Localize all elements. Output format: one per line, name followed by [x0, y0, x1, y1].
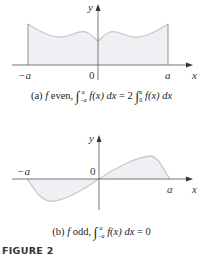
y-axis-label: y [88, 2, 93, 13]
tick-neg-a: −a [18, 70, 31, 81]
upper-limit: a [139, 88, 142, 96]
x-axis-label: x [192, 184, 197, 195]
x-axis-label: x [192, 70, 197, 81]
lower-limit: −a [98, 232, 105, 240]
tick-pos-a: a [165, 70, 171, 81]
integrand: f(x) dx [87, 90, 117, 101]
tick-neg-a: −a [17, 166, 30, 177]
y-axis-arrow-icon [97, 135, 102, 142]
caption-b: (b) f odd, ∫a−a f(x) dx = 0 [0, 224, 203, 241]
graph-b [12, 135, 193, 210]
caption-text: even, [48, 90, 76, 101]
figure-label: FIGURE 2 [2, 245, 54, 256]
integrand: f(x) dx [105, 226, 135, 237]
caption-text: odd, [70, 226, 94, 237]
x-axis-arrow-icon [186, 177, 193, 182]
figure-graphs [0, 0, 203, 257]
odd-negative-area-fill [27, 179, 99, 201]
caption-a: (a) f even, ∫a−a f(x) dx = 2 ∫a0 f(x) dx [0, 88, 203, 105]
tick-pos-a: a [167, 184, 173, 195]
integrand: f(x) dx [142, 90, 172, 101]
equals-text: = 2 [116, 90, 135, 101]
lower-limit: −a [80, 96, 87, 104]
y-axis-arrow-icon [96, 4, 101, 11]
equals-text: = 0 [134, 226, 150, 237]
tick-zero: 0 [90, 166, 96, 177]
caption-prefix: (a) [31, 90, 45, 101]
caption-prefix: (b) [52, 226, 67, 237]
y-axis-label: y [89, 133, 94, 144]
lower-limit: 0 [139, 96, 142, 104]
upper-limit: a [98, 224, 105, 232]
upper-limit: a [80, 88, 87, 96]
tick-zero: 0 [89, 70, 95, 81]
x-axis-arrow-icon [186, 63, 193, 68]
